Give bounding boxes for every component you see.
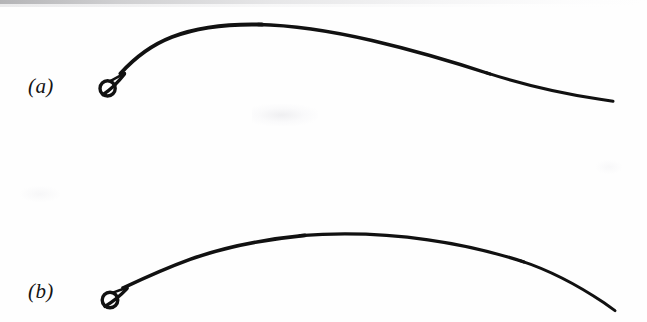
trajectory-curve-a-tail bbox=[486, 73, 613, 102]
panel-label-b: (b) bbox=[28, 279, 54, 304]
trajectory-curve-a bbox=[121, 24, 263, 73]
trajectory-curve-b-tail bbox=[520, 261, 615, 311]
diagram-canvas bbox=[0, 0, 647, 322]
trajectory-curve-a-mid bbox=[258, 25, 490, 75]
trajectory-curve-b bbox=[123, 235, 305, 288]
trajectory-curve-b-mid bbox=[300, 234, 524, 262]
figure-root: (a) (b) bbox=[0, 0, 647, 322]
panel-a-group bbox=[100, 24, 613, 101]
panel-label-a: (a) bbox=[28, 74, 54, 99]
panel-b-group bbox=[102, 234, 615, 311]
